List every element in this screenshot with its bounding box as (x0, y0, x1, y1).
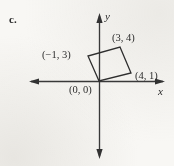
vertex-label-right: (4, 1) (135, 71, 158, 82)
vertex-label-origin: (0, 0) (69, 85, 92, 96)
quadrilateral-shape (88, 47, 131, 81)
y-axis-label: y (105, 10, 110, 22)
x-axis-left-arrow-icon (29, 78, 39, 84)
coordinate-plane-svg (0, 0, 174, 166)
quadrilateral-group (88, 47, 131, 81)
figure-coordinate-plane: c. y x (−1, 3) (3, 4) (4, 1) (0, 0) (0, 0, 174, 166)
part-label: c. (9, 13, 17, 25)
y-axis-down-arrow-icon (96, 149, 102, 159)
x-axis-label: x (158, 85, 163, 97)
vertex-label-top: (3, 4) (112, 33, 135, 44)
vertex-label-upper-left: (−1, 3) (42, 50, 71, 61)
y-axis-group (96, 13, 102, 159)
y-axis-up-arrow-icon (96, 13, 102, 23)
